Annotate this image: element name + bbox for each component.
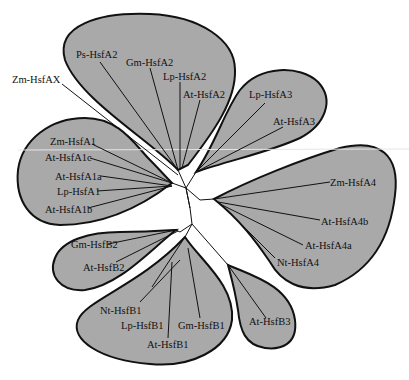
phylogenetic-tree: Ps-HsfA2 Gm-HsfA2 Lp-HsfA2 At-HsfA2 Zm-H…: [0, 0, 409, 380]
label-at-hsfa1c: At-HsfA1c: [45, 152, 92, 163]
label-zm-hsfa4: Zm-HsfA4: [330, 177, 377, 188]
label-nt-hsfa4: Nt-HsfA4: [277, 257, 320, 268]
label-at-hsfb1: At-HsfB1: [147, 339, 188, 350]
label-at-hsfa3: At-HsfA3: [273, 116, 315, 127]
label-at-hsfa4a: At-HsfA4a: [305, 240, 352, 251]
label-at-hsfa1b: At-HsfA1b: [45, 204, 92, 215]
label-lp-hsfa3: Lp-HsfA3: [249, 89, 292, 100]
label-gm-hsfb2: Gm-HsfB2: [71, 239, 118, 250]
label-zm-hsfa1: Zm-HsfA1: [50, 136, 96, 147]
label-lp-hsfb1: Lp-HsfB1: [121, 320, 164, 331]
label-at-hsfa4b: At-HsfA4b: [321, 216, 368, 227]
label-at-hsfb3: At-HsfB3: [249, 316, 290, 327]
label-gm-hsfa2: Gm-HsfA2: [126, 57, 173, 68]
label-at-hsfa1a: At-HsfA1a: [55, 171, 102, 182]
label-lp-hsfa1: Lp-HsfA1: [57, 186, 100, 197]
label-ps-hsfa2: Ps-HsfA2: [76, 49, 117, 60]
label-lp-hsfa2: Lp-HsfA2: [163, 71, 206, 82]
label-at-hsfa2: At-HsfA2: [183, 89, 225, 100]
label-gm-hsfb1: Gm-HsfB1: [178, 320, 225, 331]
label-nt-hsfb1: Nt-HsfB1: [100, 305, 141, 316]
label-zm-hsfax: Zm-HsfAX: [12, 74, 61, 85]
label-at-hsfb2: At-HsfB2: [83, 262, 124, 273]
